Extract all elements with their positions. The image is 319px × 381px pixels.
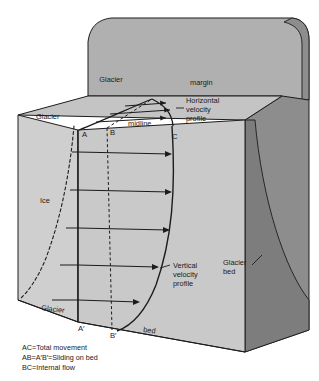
legend-item-0: AC=Total movement	[22, 343, 87, 352]
label-glacier-top: Glacier	[99, 75, 123, 84]
label-glacier-left: Glacier	[36, 112, 60, 121]
vvp-line-1: Vertical	[173, 261, 198, 270]
glacier-bed-line-2: bed	[223, 267, 235, 276]
glacier-front-face	[78, 120, 245, 352]
legend-item-1: AB=A′B′=Sliding on bed	[22, 353, 98, 362]
glacier-velocity-diagram: Glacier margin Glacier Ice Glacier midli…	[0, 0, 319, 381]
legend-item-2: BC=Internal flow	[22, 363, 76, 372]
valley-back-wall	[88, 18, 309, 100]
label-midline: midline	[128, 119, 151, 128]
hvp-line-3: profile	[186, 114, 206, 123]
vvp-line-2: velocity	[173, 270, 198, 279]
vvp-line-3: profile	[173, 279, 193, 288]
label-margin: margin	[190, 78, 213, 87]
point-label-C: C	[172, 132, 178, 141]
label-ice: Ice	[40, 196, 50, 205]
hvp-line-2: velocity	[186, 105, 211, 114]
hvp-line-1: Horizontal	[186, 96, 220, 105]
label-bed: bed	[143, 325, 156, 335]
glacier-bed-line-1: Glacier	[223, 258, 247, 267]
point-label-B-prime: B′	[110, 331, 117, 340]
point-label-B: B	[110, 128, 115, 137]
point-label-A-prime: A′	[78, 324, 85, 333]
